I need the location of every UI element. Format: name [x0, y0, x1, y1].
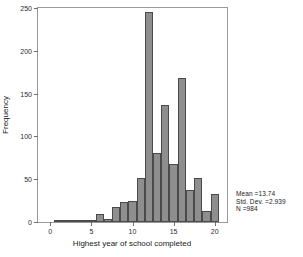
histogram-bar: [202, 211, 210, 222]
x-axis-tick-label: 5: [89, 228, 93, 235]
y-axis-tick: [34, 136, 38, 137]
histogram-figure: Frequency 05010015020025005101520 Highes…: [0, 0, 303, 257]
plot-area: [38, 8, 227, 222]
y-axis-tick: [34, 179, 38, 180]
x-axis-tick-label: 10: [129, 228, 137, 235]
y-axis-tick-label: 0: [28, 219, 32, 226]
x-axis-tick-label: 0: [48, 228, 52, 235]
x-axis-tick: [133, 222, 134, 226]
y-axis-tick-label: 50: [24, 176, 32, 183]
x-axis-tick: [215, 222, 216, 226]
y-axis-tick-label: 200: [20, 47, 32, 54]
stat-std-dev: Std. Dev. =2.939: [236, 198, 286, 206]
y-axis-tick-label: 150: [20, 90, 32, 97]
y-axis-tick: [34, 8, 38, 9]
histogram-bar: [169, 164, 177, 222]
histogram-bar: [194, 178, 202, 222]
histogram-bar: [186, 190, 194, 222]
histogram-bar: [71, 220, 79, 222]
histogram-bar: [128, 201, 136, 222]
histogram-bar: [63, 220, 71, 222]
histogram-bar: [153, 153, 161, 222]
x-axis-tick-label: 20: [211, 228, 219, 235]
histogram-bar: [211, 194, 219, 222]
statistics-annotation: Mean =13.74 Std. Dev. =2.939 N =984: [236, 190, 286, 213]
histogram-bar: [54, 220, 62, 222]
plot-frame: 05010015020025005101520: [37, 7, 228, 223]
histogram-bar: [145, 12, 153, 222]
y-axis-tick: [34, 51, 38, 52]
x-axis-tick: [50, 222, 51, 226]
x-axis-tick-label: 15: [170, 228, 178, 235]
y-axis-tick-label: 100: [20, 133, 32, 140]
histogram-bar: [161, 105, 169, 222]
y-axis-tick-label: 250: [20, 5, 32, 12]
histogram-bar: [137, 178, 145, 223]
histogram-bar: [112, 207, 120, 222]
y-axis-tick: [34, 222, 38, 223]
stat-mean: Mean =13.74: [236, 190, 286, 198]
histogram-bar: [79, 220, 87, 222]
histogram-bar: [96, 214, 104, 222]
histogram-bar: [178, 78, 186, 222]
y-axis-title: Frequency: [1, 96, 10, 134]
stat-n: N =984: [236, 205, 286, 213]
histogram-bar: [120, 202, 128, 222]
x-axis-tick: [174, 222, 175, 226]
x-axis-title: Highest year of school completed: [73, 239, 191, 248]
x-axis-tick: [91, 222, 92, 226]
y-axis-tick: [34, 94, 38, 95]
histogram-bar: [104, 219, 112, 222]
